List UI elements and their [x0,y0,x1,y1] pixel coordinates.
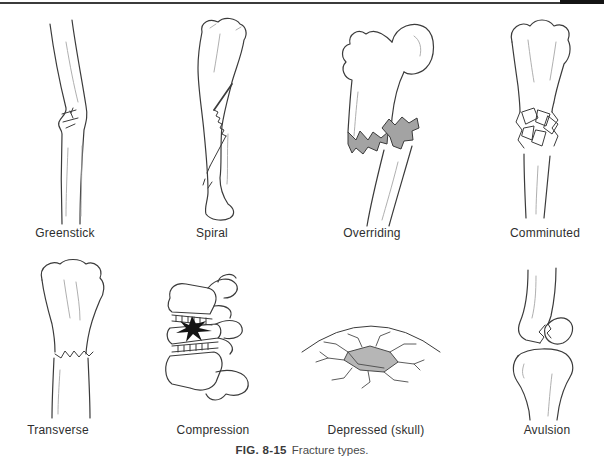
overriding-panel [322,14,440,230]
label-greenstick: Greenstick [35,226,94,240]
label-compression: Compression [177,423,250,437]
figure-caption: FIG. 8-15Fracture types. [0,444,604,456]
depressed-skull-fracture-illustration [296,312,446,396]
spiral-panel [172,14,277,226]
transverse-panel [28,258,126,422]
overriding-fracture-illustration [322,14,440,230]
avulsion-panel [494,256,586,424]
page-top-rule-end-cap [560,0,604,4]
spiral-fracture-illustration [172,14,277,226]
greenstick-panel [20,18,130,226]
compression-fracture-illustration [156,268,268,408]
greenstick-fracture-illustration [20,18,130,226]
label-comminuted: Comminuted [510,226,580,240]
page-top-rule [0,2,604,4]
compression-panel [156,268,268,408]
label-transverse: Transverse [27,423,89,437]
comminuted-panel [492,16,580,222]
label-spiral: Spiral [196,226,228,240]
label-depressed-skull: Depressed (skull) [328,423,425,437]
textbook-figure-page: { "page": { "background": "#ffffff", "to… [0,0,604,466]
comminuted-fracture-illustration [492,16,580,222]
label-avulsion: Avulsion [524,423,571,437]
figure-number: FIG. 8-15 [236,444,287,456]
figure-caption-text: Fracture types. [292,444,369,456]
transverse-fracture-illustration [28,258,126,422]
label-overriding: Overriding [343,226,400,240]
avulsion-fracture-illustration [494,256,586,424]
depressed-skull-panel [296,312,446,396]
